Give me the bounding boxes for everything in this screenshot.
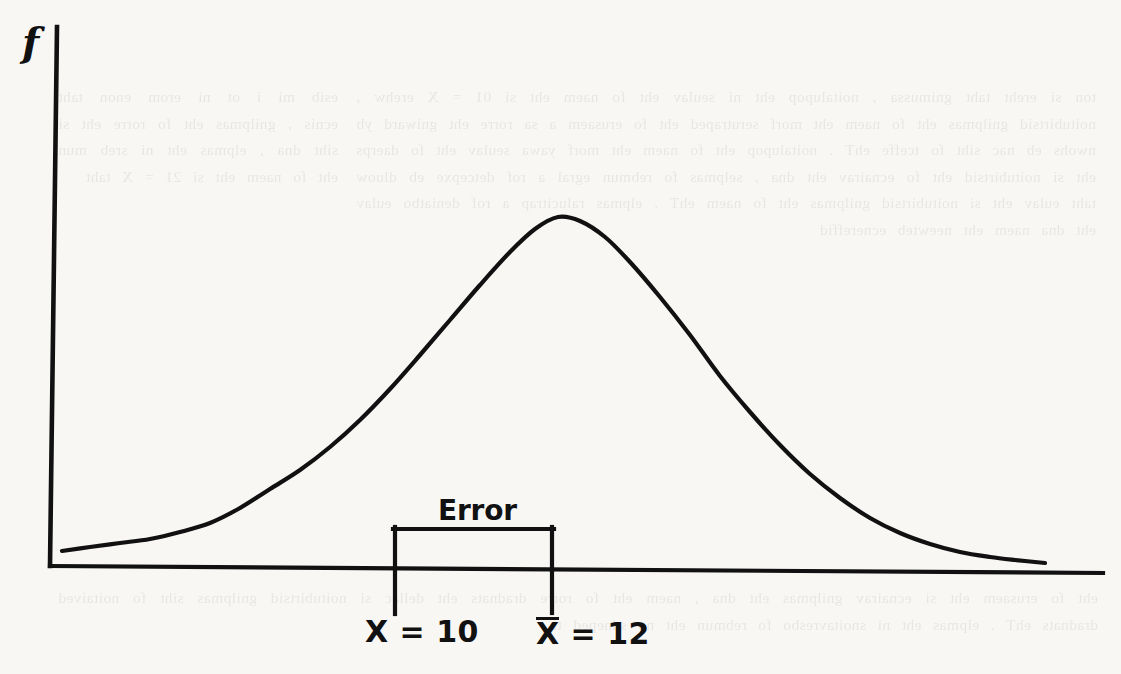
sample-mean-value: = 12 <box>560 616 650 651</box>
y-axis-label-f: f <box>22 22 39 62</box>
normal-distribution-curve <box>62 217 1045 563</box>
axes-group <box>50 27 1103 573</box>
x-bar-letter: X <box>536 616 560 650</box>
error-bracket-label: Error <box>438 497 517 525</box>
x-bar-overline <box>536 617 559 620</box>
sample-mean-tick-label: X = 12 <box>536 616 650 650</box>
figure-line-art <box>0 0 1121 674</box>
figure-canvas: esib mi i ot ni erom enon taht ecnis , g… <box>0 0 1121 674</box>
x-axis-line <box>50 566 1103 573</box>
population-mean-tick-label: X = 10 <box>365 616 479 648</box>
y-axis-line <box>50 27 57 566</box>
x-bar-glyph: X <box>536 616 560 650</box>
